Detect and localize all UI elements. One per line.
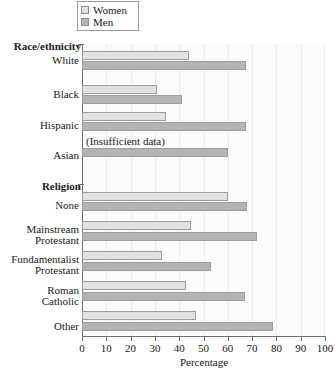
group-header-religion: Religion <box>42 180 81 192</box>
legend-swatch-men <box>81 18 89 26</box>
bar-white-women <box>82 51 189 60</box>
bar-other-men <box>82 322 273 331</box>
bar-other-women <box>82 311 196 320</box>
legend-label-men: Men <box>93 16 113 28</box>
bar-mainstream-protestant-men <box>82 232 257 241</box>
bar-white-men <box>82 61 246 70</box>
bar-none-men <box>82 202 247 211</box>
x-tick-100: 100 <box>310 342 335 354</box>
bar-asian-men <box>82 148 228 157</box>
legend-label-women: Women <box>93 4 127 16</box>
category-label-black: Black <box>0 89 79 100</box>
bar-roman-catholic-women <box>82 281 186 290</box>
insufficient-data-note: (Insufficient data) <box>86 135 165 147</box>
chart-legend: Women Men <box>77 1 139 31</box>
category-label-roman-catholic: Roman Catholic <box>0 285 79 307</box>
legend-item-men: Men <box>81 16 134 28</box>
bar-fundamentalist-protestant-men <box>82 262 211 271</box>
category-label-other: Other <box>0 321 79 332</box>
category-label-asian: Asian <box>0 150 79 161</box>
category-label-hispanic: Hispanic <box>0 120 79 131</box>
bar-black-men <box>82 95 182 104</box>
bar-mainstream-protestant-women <box>82 221 191 230</box>
bar-hispanic-men <box>82 122 246 131</box>
bar-hispanic-women <box>82 112 166 121</box>
category-label-mainstream-protestant: Mainstream Protestant <box>0 224 79 246</box>
bar-black-women <box>82 85 157 94</box>
category-label-fundamentalist-protestant: Fundamentalist Protestant <box>0 254 79 276</box>
legend-item-women: Women <box>81 4 134 16</box>
bar-roman-catholic-men <box>82 292 245 301</box>
category-label-white: White <box>0 55 79 66</box>
legend-swatch-women <box>81 6 89 14</box>
category-label-none: None <box>0 200 79 211</box>
x-axis-label: Percentage <box>82 356 326 368</box>
group-bracket-religion <box>78 184 84 190</box>
group-header-race-ethnicity: Race/ethnicity <box>14 40 81 52</box>
bar-none-women <box>82 192 228 201</box>
bar-fundamentalist-protestant-women <box>82 251 162 260</box>
group-bracket-race-ethnicity <box>78 44 84 50</box>
bar-chart: Women Men Race/ethnicity White Black His… <box>0 0 335 374</box>
